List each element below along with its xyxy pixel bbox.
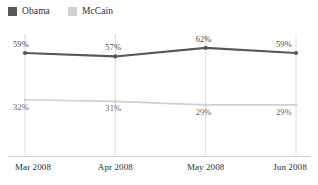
x-tick-label-0: Mar 2008	[15, 162, 51, 173]
legend-item-obama[interactable]: Obama	[8, 6, 50, 16]
x-tick-label-2: May 2008	[187, 162, 225, 173]
data-point-mccain-3[interactable]	[295, 103, 298, 106]
data-label-obama-1: 57%	[105, 43, 121, 52]
data-point-mccain-2[interactable]	[204, 103, 207, 106]
legend-item-mccain[interactable]: McCain	[68, 6, 113, 16]
data-label-mccain-3: 29%	[276, 108, 292, 117]
x-tick-label-3: Jun 2008	[273, 162, 307, 173]
series-line-obama	[25, 48, 296, 57]
data-label-obama-3: 59%	[276, 40, 292, 49]
data-label-mccain-2: 29%	[196, 108, 212, 117]
x-tick-label-1: Apr 2008	[98, 162, 133, 173]
legend-swatch-mccain	[68, 7, 77, 16]
data-point-obama-0[interactable]	[23, 51, 27, 55]
legend-swatch-obama	[8, 7, 17, 16]
line-chart: Obama McCain 59%57%62%59%32%31%29%29% Ma…	[0, 0, 318, 185]
data-point-obama-3[interactable]	[294, 51, 298, 55]
chart-legend: Obama McCain	[8, 4, 113, 18]
series-line-mccain	[25, 100, 296, 105]
x-axis-tick-labels: Mar 2008Apr 2008May 2008Jun 2008	[0, 162, 318, 176]
data-label-mccain-0: 32%	[13, 103, 29, 112]
legend-label-obama: Obama	[22, 6, 50, 16]
legend-label-mccain: McCain	[82, 6, 113, 16]
data-point-mccain-0[interactable]	[24, 98, 27, 101]
data-label-mccain-1: 31%	[105, 104, 121, 113]
plot-svg	[0, 22, 318, 157]
data-point-obama-2[interactable]	[204, 46, 208, 50]
data-point-obama-1[interactable]	[113, 54, 117, 58]
data-label-obama-2: 62%	[196, 35, 212, 44]
data-label-obama-0: 59%	[13, 40, 29, 49]
plot-area	[0, 22, 318, 157]
